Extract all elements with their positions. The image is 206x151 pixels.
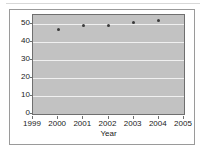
y-tick-mark <box>30 41 33 42</box>
gridline-y-40 <box>33 42 184 43</box>
gridline-y-30 <box>33 60 184 61</box>
plot-area <box>32 14 185 115</box>
x-tick-mark <box>158 116 159 119</box>
y-tick-mark <box>30 23 33 24</box>
y-tick-label: 50 <box>10 19 30 27</box>
x-tick-mark <box>32 116 33 119</box>
y-tick-mark <box>30 77 33 78</box>
data-point <box>107 24 110 27</box>
y-tick-label: 0 <box>10 109 30 117</box>
y-tick-label: 40 <box>10 37 30 45</box>
top-divider <box>6 3 200 4</box>
x-axis: 1999200020012002200320042005 <box>32 116 185 130</box>
data-point <box>157 19 160 22</box>
y-tick-mark <box>30 59 33 60</box>
data-point <box>57 28 60 31</box>
gridline-y-10 <box>33 96 184 97</box>
y-axis: 01020304050 <box>8 14 30 115</box>
x-tick-mark <box>183 116 184 119</box>
y-tick-label: 20 <box>10 73 30 81</box>
x-axis-label: Year <box>32 129 185 138</box>
y-tick-mark <box>30 95 33 96</box>
x-tick-label: 2005 <box>168 120 198 128</box>
y-tick-label: 10 <box>10 91 30 99</box>
data-point <box>82 24 85 27</box>
data-point <box>132 21 135 24</box>
x-tick-mark <box>57 116 58 119</box>
y-tick-mark <box>30 113 33 114</box>
chart-figure: 01020304050 1999200020012002200320042005… <box>0 0 206 151</box>
x-tick-mark <box>133 116 134 119</box>
y-tick-label: 30 <box>10 55 30 63</box>
gridline-y-20 <box>33 78 184 79</box>
x-tick-mark <box>82 116 83 119</box>
x-tick-mark <box>108 116 109 119</box>
